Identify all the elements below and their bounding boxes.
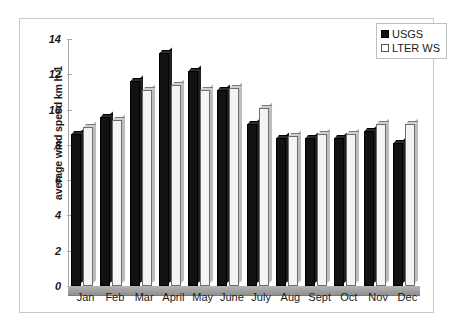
- bar-top-3d: [405, 121, 418, 124]
- bar-top-3d: [171, 82, 184, 85]
- y-axis-tick-label: 2: [55, 245, 61, 257]
- bar-side-3d: [386, 118, 389, 283]
- bar-lter-ws-dec: [405, 124, 415, 286]
- bar-usgs-aug: [276, 138, 286, 286]
- bar-group: [71, 39, 100, 286]
- x-axis-label-oct: Oct: [340, 291, 357, 303]
- bar-face: [142, 90, 152, 286]
- y-axis-tick-label: 8: [55, 139, 61, 151]
- legend-item-lter-ws: LTER WS: [381, 41, 440, 55]
- bar-side-3d: [210, 85, 213, 283]
- bar-lter-ws-aug: [288, 136, 298, 286]
- bar-side-3d: [269, 102, 272, 283]
- chart-container: average wind speed km h-1 02468101214 Ja…: [19, 18, 434, 313]
- bar-side-3d: [415, 118, 418, 283]
- bar-lter-ws-jan: [83, 127, 93, 286]
- bar-face: [276, 138, 286, 286]
- legend-swatch-usgs-icon: [381, 30, 389, 38]
- x-axis-label-may: May: [192, 291, 213, 303]
- bar-lter-ws-nov: [376, 124, 386, 286]
- bar-usgs-jan: [71, 134, 81, 286]
- legend-label-usgs: USGS: [392, 28, 423, 40]
- bar-lter-ws-feb: [112, 120, 122, 286]
- legend-label-lter-ws: LTER WS: [392, 42, 440, 54]
- bar-face: [71, 134, 81, 286]
- x-axis-label-dec: Dec: [398, 291, 418, 303]
- bar-lter-ws-mar: [142, 90, 152, 286]
- bar-lter-ws-oct: [346, 134, 356, 286]
- plot-area: 02468101214: [68, 39, 420, 286]
- bar-side-3d: [327, 129, 330, 283]
- bar-group: [159, 39, 188, 286]
- bar-side-3d: [298, 131, 301, 283]
- x-axis-label-july: July: [251, 291, 271, 303]
- x-axis-label-june: June: [220, 291, 244, 303]
- bar-usgs-may: [188, 71, 198, 286]
- bar-group: [276, 39, 305, 286]
- bar-face: [317, 134, 327, 286]
- bar-face: [288, 136, 298, 286]
- bar-group: [188, 39, 217, 286]
- bar-face: [112, 120, 122, 286]
- bar-group: [334, 39, 363, 286]
- bar-group: [305, 39, 334, 286]
- bar-usgs-nov: [364, 131, 374, 286]
- bar-face: [376, 124, 386, 286]
- chart-legend: USGS LTER WS: [376, 23, 447, 59]
- bar-group: [130, 39, 159, 286]
- bar-usgs-july: [247, 124, 257, 286]
- bar-face: [229, 88, 239, 286]
- bar-group: [100, 39, 129, 286]
- bar-face: [405, 124, 415, 286]
- bar-usgs-dec: [393, 143, 403, 286]
- bar-side-3d: [239, 83, 242, 283]
- bar-usgs-april: [159, 53, 169, 286]
- bar-group: [247, 39, 276, 286]
- bar-lter-ws-june: [229, 88, 239, 286]
- bar-usgs-june: [217, 90, 227, 286]
- x-axis-label-feb: Feb: [105, 291, 124, 303]
- y-axis-tick-label: 0: [55, 280, 61, 292]
- bar-face: [393, 143, 403, 286]
- bar-face: [100, 117, 110, 286]
- bar-usgs-oct: [334, 138, 344, 286]
- legend-swatch-lter-ws-icon: [381, 44, 389, 52]
- y-axis-tick-label: 10: [49, 104, 61, 116]
- y-axis-tick-label: 4: [55, 209, 61, 221]
- bar-face: [200, 90, 210, 286]
- bar-side-3d: [122, 115, 125, 283]
- bar-face: [247, 124, 257, 286]
- bar-side-3d: [356, 129, 359, 283]
- x-axis-label-jan: Jan: [77, 291, 95, 303]
- x-axis-label-aug: Aug: [281, 291, 301, 303]
- bar-lter-ws-july: [259, 108, 269, 286]
- y-axis-tick-label: 12: [49, 68, 61, 80]
- bar-usgs-sept: [305, 138, 315, 286]
- x-axis-labels: JanFebMarAprilMayJuneJulyAugSeptOctNovDe…: [69, 291, 421, 311]
- legend-item-usgs: USGS: [381, 27, 440, 41]
- x-axis-label-april: April: [162, 291, 184, 303]
- bar-side-3d: [93, 122, 96, 283]
- x-axis-label-mar: Mar: [135, 291, 154, 303]
- bar-top-3d: [142, 87, 155, 90]
- bar-face: [364, 131, 374, 286]
- bar-face: [259, 108, 269, 286]
- bar-group: [393, 39, 422, 286]
- x-axis-label-nov: Nov: [368, 291, 388, 303]
- bar-lter-ws-may: [200, 90, 210, 286]
- bar-face: [159, 53, 169, 286]
- bar-face: [171, 85, 181, 286]
- y-axis-title: average wind speed km h-1: [52, 33, 64, 233]
- bar-face: [130, 81, 140, 286]
- x-axis-label-sept: Sept: [308, 291, 331, 303]
- y-axis-tick-label: 14: [49, 33, 61, 45]
- bar-group: [217, 39, 246, 286]
- bar-lter-ws-april: [171, 85, 181, 286]
- bar-side-3d: [152, 85, 155, 283]
- y-axis-tick-label: 6: [55, 174, 61, 186]
- bar-face: [305, 138, 315, 286]
- bar-face: [346, 134, 356, 286]
- bar-face: [83, 127, 93, 286]
- bar-group: [364, 39, 393, 286]
- bar-lter-ws-sept: [317, 134, 327, 286]
